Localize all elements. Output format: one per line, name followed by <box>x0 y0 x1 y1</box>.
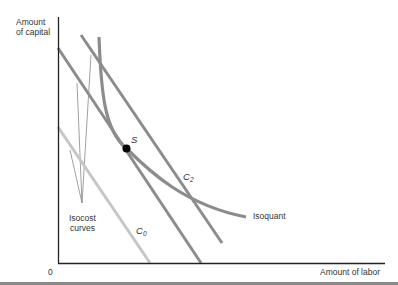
isocost-label-line2: curves <box>69 224 96 234</box>
isoquant-curve <box>99 37 246 217</box>
c2-label: C2 <box>183 172 194 183</box>
c0-label: C0 <box>136 226 147 237</box>
c0-subscript: 0 <box>143 230 147 237</box>
c2-letter: C <box>183 171 190 182</box>
point-s-marker <box>123 145 131 153</box>
isocost-pointer-2 <box>82 55 91 203</box>
c2-subscript: 2 <box>190 176 194 183</box>
point-s-label: S <box>131 135 137 146</box>
origin-label: 0 <box>48 268 53 278</box>
isocost-curves-label: Isocost curves <box>69 214 96 234</box>
x-axis-label: Amount of labor <box>320 268 380 278</box>
diagram-canvas <box>0 0 398 285</box>
isocost-line-c0 <box>58 127 150 263</box>
y-axis-label: Amount of capital <box>16 18 50 38</box>
isoquant-label: Isoquant <box>253 212 286 222</box>
c0-letter: C <box>136 225 143 236</box>
isocost-line-c2 <box>81 35 222 243</box>
y-axis-label-line2: of capital <box>16 28 50 38</box>
